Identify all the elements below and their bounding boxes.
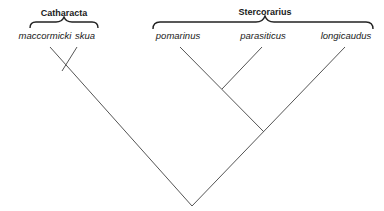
branch-parasiticus [222, 47, 262, 89]
taxon-label-longicaudus: longicaudus [321, 30, 372, 41]
branch-longicaudus [192, 47, 345, 206]
taxon-label-maccormicki: maccormicki [19, 30, 72, 41]
genus-label-stercorarius: Stercorarius [238, 7, 291, 17]
stercorarius-brace [153, 16, 373, 29]
branch-maccormicki [50, 47, 192, 206]
taxon-label-pomarinus: pomarinus [156, 30, 200, 41]
cladogram-figure: Catharacta Stercorarius maccormicki skua… [0, 0, 384, 211]
taxon-label-parasiticus: parasiticus [240, 30, 285, 41]
branch-skua [62, 47, 77, 71]
genus-label-catharacta: Catharacta [41, 8, 88, 18]
catharacta-brace [30, 17, 98, 28]
taxon-label-skua: skua [75, 30, 95, 41]
branch-pomarinus [180, 47, 264, 132]
